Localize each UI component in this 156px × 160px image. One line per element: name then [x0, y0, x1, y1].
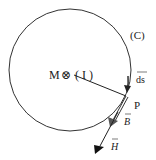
label-ds: ds	[136, 74, 145, 85]
label-h: H	[110, 141, 119, 152]
label-current-i: ( I )	[75, 68, 93, 82]
label-p: P	[134, 99, 140, 111]
current-into-page-icon: ⊗	[61, 68, 71, 82]
label-m: M	[49, 68, 60, 82]
label-b: B	[124, 116, 130, 127]
ampere-loop-diagram: M ⊗ ( I ) (C) ds P B H	[0, 0, 156, 160]
label-curve-c: (C)	[130, 29, 145, 42]
